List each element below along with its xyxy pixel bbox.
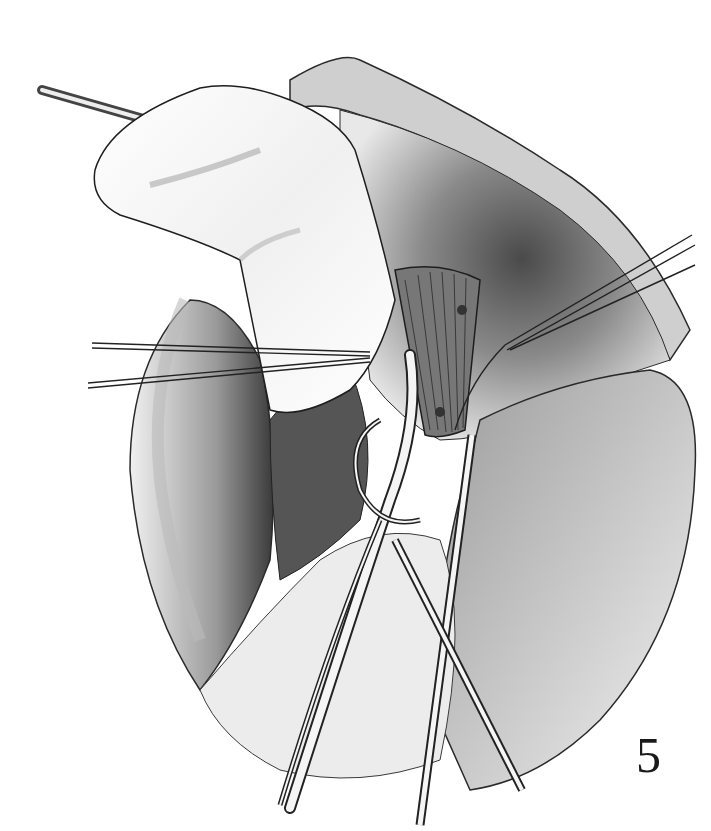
figure-number: 5 — [636, 730, 661, 780]
surgical-illustration — [0, 0, 711, 831]
